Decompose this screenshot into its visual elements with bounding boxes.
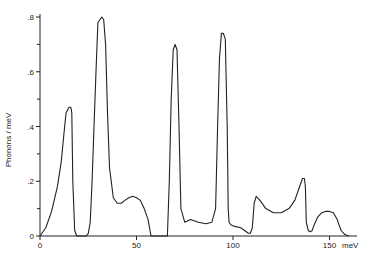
y-tick-label: .6 [27, 68, 34, 77]
axes [40, 14, 357, 236]
x-tick-label: 50 [132, 241, 141, 250]
x-axis-unit-label: meV [342, 241, 359, 250]
y-tick-label: 0 [30, 232, 35, 241]
y-ticks: 0.2.4.6.8 [27, 13, 40, 241]
y-tick-label: .2 [27, 177, 34, 186]
y-tick-label: .8 [27, 13, 34, 22]
x-tick-label: 100 [226, 241, 240, 250]
y-tick-label: .4 [27, 123, 34, 132]
x-tick-label: 0 [38, 241, 43, 250]
x-tick-label: 150 [323, 241, 337, 250]
dos-curve [40, 17, 349, 236]
x-ticks: 050100150 [38, 236, 337, 250]
y-axis-label: Phonons / meV [4, 112, 13, 167]
phonon-dos-chart: 0.2.4.6.8 050100150 Phonons / meV meV [0, 0, 372, 263]
